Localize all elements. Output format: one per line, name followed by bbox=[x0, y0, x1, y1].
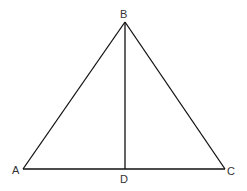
label-b: B bbox=[120, 8, 127, 20]
label-d: D bbox=[120, 173, 128, 185]
label-c: C bbox=[227, 165, 235, 177]
triangle-diagram: B A C D bbox=[0, 0, 247, 191]
segment-ab bbox=[23, 22, 125, 169]
label-a: A bbox=[12, 164, 20, 176]
segment-bc bbox=[125, 22, 225, 169]
